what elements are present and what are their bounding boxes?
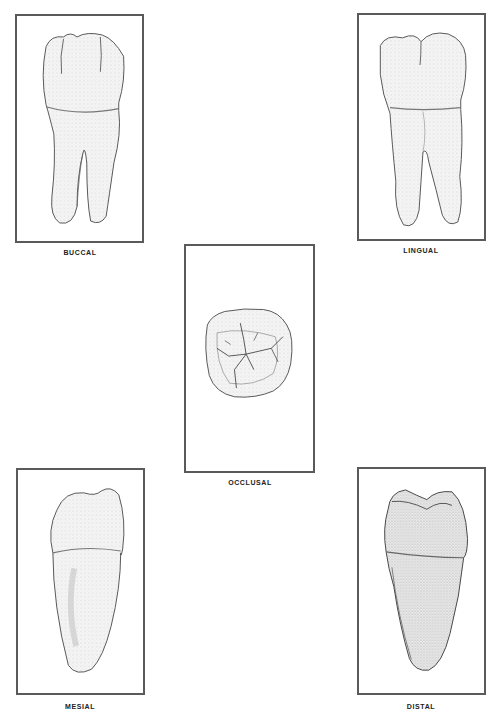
label-mesial: MESIAL [20, 703, 140, 710]
buccal-tooth-illustration [17, 16, 142, 241]
label-occlusal: OCCLUSAL [190, 479, 310, 486]
panel-distal [357, 467, 486, 695]
mesial-tooth-illustration [18, 470, 143, 693]
label-buccal: BUCCAL [20, 249, 140, 256]
label-distal: DISTAL [361, 703, 481, 710]
panel-mesial [16, 468, 145, 695]
label-lingual: LINGUAL [361, 247, 481, 254]
panel-occlusal [184, 244, 315, 473]
distal-tooth-illustration [359, 469, 484, 693]
lingual-tooth-illustration [359, 15, 484, 239]
panel-lingual [357, 13, 486, 241]
occlusal-tooth-illustration [186, 246, 313, 471]
panel-buccal [15, 14, 144, 243]
